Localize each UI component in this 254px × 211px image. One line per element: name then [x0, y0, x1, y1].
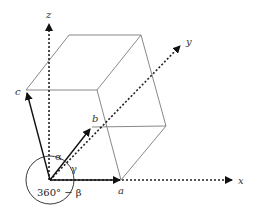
unit-cell-diagram: z y x c b a α γ 360° − β: [0, 0, 254, 211]
gamma-angle-label: γ: [71, 163, 77, 174]
edge-top-right: [97, 35, 141, 90]
vector-a-label: a: [118, 185, 124, 196]
x-axis-label: x: [238, 175, 244, 186]
beta-complement-angle-label: 360° − β: [37, 187, 82, 198]
y-axis-label: y: [185, 36, 192, 47]
unit-cell-edges: [26, 35, 166, 180]
vector-b-label: b: [92, 113, 98, 124]
y-axis: [50, 46, 180, 180]
edge-b-to-right: [92, 126, 166, 127]
edge-c-top-left: [26, 35, 69, 90]
alpha-angle-label: α: [55, 151, 62, 162]
z-axis-label: z: [45, 9, 52, 20]
edge-back-right-vertical: [141, 35, 166, 126]
edge-front-right-vertical: [97, 90, 121, 180]
vector-c: [27, 93, 50, 180]
edge-right-to-a: [121, 126, 166, 180]
vector-c-label: c: [15, 86, 21, 97]
